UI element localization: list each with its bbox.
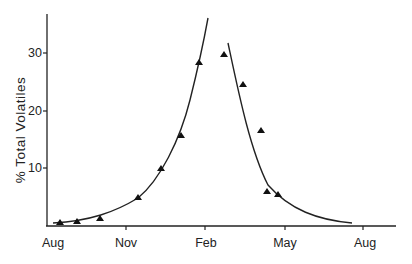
triangle-marker xyxy=(239,81,247,87)
y-tick-label: 10 xyxy=(28,161,42,175)
falling-fit-curve xyxy=(228,43,352,223)
y-axis-title: % Total Volatiles xyxy=(13,77,28,184)
x-tick-label: May xyxy=(273,236,297,250)
x-tick-label: Aug xyxy=(354,236,376,250)
x-tick-label: Aug xyxy=(42,236,64,250)
triangle-marker xyxy=(195,59,203,65)
data-points xyxy=(56,51,282,225)
x-tick-label: Feb xyxy=(195,236,217,250)
x-tick-label: Nov xyxy=(115,236,138,250)
y-tick-label: 30 xyxy=(28,46,42,60)
triangle-marker xyxy=(257,127,265,133)
y-tick-label: 20 xyxy=(28,104,42,118)
rising-fit-curve xyxy=(53,18,208,223)
triangle-marker xyxy=(263,188,271,194)
triangle-marker xyxy=(220,51,228,57)
volatiles-chart: 10 20 30 Aug Nov Feb May Aug % Total Vol… xyxy=(0,0,412,264)
